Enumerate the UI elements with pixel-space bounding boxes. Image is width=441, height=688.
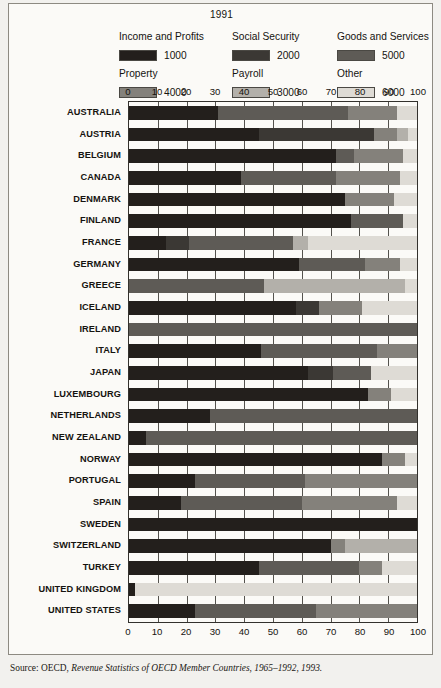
bar-segment-1000 <box>129 409 210 423</box>
x-tick-bottom-30: 30 <box>210 626 221 637</box>
bar-segment-4000 <box>377 344 417 358</box>
bar-row[interactable] <box>129 539 417 553</box>
bar-segment-1000 <box>129 106 218 120</box>
legend-swatch-icon-2000 <box>232 50 270 61</box>
bar-segment-5000 <box>333 366 370 380</box>
bar-segment-2000 <box>308 366 334 380</box>
bar-segment-1000 <box>129 301 296 315</box>
bar-segment-6000 <box>397 106 417 120</box>
bar-segment-4000 <box>331 539 345 553</box>
bar-segment-6000 <box>403 214 417 228</box>
bar-row[interactable] <box>129 474 417 488</box>
bar-segment-5000 <box>189 236 293 250</box>
bar-segment-1000 <box>129 149 336 163</box>
bar-segment-3000 <box>397 128 409 142</box>
bar-segment-5000 <box>195 474 304 488</box>
bar-row[interactable] <box>129 583 417 597</box>
x-tick-top-60: 60 <box>297 86 308 97</box>
bar-segment-6000 <box>400 258 417 272</box>
bar-row[interactable] <box>129 149 417 163</box>
bar-row[interactable] <box>129 279 417 293</box>
bar-row[interactable] <box>129 561 417 575</box>
bar-segment-4000 <box>319 301 362 315</box>
bar-segment-6000 <box>403 149 417 163</box>
bar-segment-1000 <box>129 214 351 228</box>
category-label: PORTUGAL <box>69 475 121 485</box>
bar-segment-6000 <box>308 236 417 250</box>
bar-row[interactable] <box>129 301 417 315</box>
legend-item-1000[interactable]: 1000 <box>119 45 232 65</box>
x-tick-bottom-80: 80 <box>355 626 366 637</box>
bar-row[interactable] <box>129 323 417 337</box>
bar-row[interactable] <box>129 258 417 272</box>
bar-segment-4000 <box>316 604 417 618</box>
bar-row[interactable] <box>129 431 417 445</box>
bar-row[interactable] <box>129 604 417 618</box>
x-tick-top-100: 100 <box>410 86 426 97</box>
bar-segment-6000 <box>362 301 417 315</box>
bar-segment-4000 <box>374 128 397 142</box>
x-tick-top-70: 70 <box>326 86 337 97</box>
category-label: ICELAND <box>79 302 121 312</box>
bar-segment-4000 <box>305 474 417 488</box>
bar-row[interactable] <box>129 171 417 185</box>
bar-row[interactable] <box>129 128 417 142</box>
bar-segment-3000 <box>293 236 307 250</box>
category-label: SWITZERLAND <box>53 540 121 550</box>
category-axis-labels: AUSTRALIAAUSTRIABELGIUMCANADADENMARKFINL… <box>9 101 124 623</box>
legend-item-5000[interactable]: 5000 <box>337 45 441 65</box>
bar-segment-3000 <box>264 279 405 293</box>
bar-segment-6000 <box>391 388 417 402</box>
x-tick-bottom-60: 60 <box>297 626 308 637</box>
bar-segment-1000 <box>129 453 382 467</box>
bar-row[interactable] <box>129 453 417 467</box>
bar-segment-4000 <box>365 258 400 272</box>
category-label: BELGIUM <box>78 150 121 160</box>
bar-segment-5000 <box>241 171 336 185</box>
bar-row[interactable] <box>129 106 417 120</box>
bar-segment-1000 <box>129 539 331 553</box>
x-tick-bottom-100: 100 <box>410 626 426 637</box>
bar-row[interactable] <box>129 496 417 510</box>
category-label: SWEDEN <box>80 519 121 529</box>
bar-segment-1000 <box>129 193 345 207</box>
x-tick-top-40: 40 <box>239 86 250 97</box>
bar-segment-4000 <box>354 149 403 163</box>
bar-segment-2000 <box>259 128 374 142</box>
bar-row[interactable] <box>129 344 417 358</box>
bar-segment-1000 <box>129 236 166 250</box>
x-tick-bottom-70: 70 <box>326 626 337 637</box>
bar-row[interactable] <box>129 214 417 228</box>
figure-panel: 1991 Income and ProfitsSocial SecurityGo… <box>8 3 433 655</box>
bar-segment-6000 <box>405 453 417 467</box>
bar-segment-6000 <box>400 171 417 185</box>
x-tick-top-80: 80 <box>355 86 366 97</box>
x-axis-bottom: 0102030405060708090100 <box>128 626 418 640</box>
bar-segment-1000 <box>129 431 146 445</box>
bar-row[interactable] <box>129 193 417 207</box>
bar-row[interactable] <box>129 409 417 423</box>
category-label: CANADA <box>81 172 121 182</box>
category-label: ITALY <box>95 345 121 355</box>
bar-segment-5000 <box>261 344 376 358</box>
bar-row[interactable] <box>129 518 417 532</box>
bar-segment-6000 <box>382 561 417 575</box>
bar-segment-4000 <box>336 171 399 185</box>
chart-title: 1991 <box>9 9 434 20</box>
bar-row[interactable] <box>129 388 417 402</box>
source-citation: Revenue Statistics of OECD Member Countr… <box>71 663 322 673</box>
bar-rows <box>129 102 417 622</box>
bar-segment-5000 <box>181 496 302 510</box>
bar-row[interactable] <box>129 236 417 250</box>
legend-item-2000[interactable]: 2000 <box>232 45 337 65</box>
legend-code-1000: 1000 <box>164 50 187 61</box>
legend-title-4000: Property <box>119 65 232 82</box>
category-label: TURKEY <box>83 562 121 572</box>
category-label: AUSTRIA <box>79 129 121 139</box>
legend-title-3000: Payroll <box>232 65 337 82</box>
bar-row[interactable] <box>129 366 417 380</box>
x-tick-top-0: 0 <box>125 86 130 97</box>
bar-segment-1000 <box>129 171 241 185</box>
bar-segment-5000 <box>129 279 264 293</box>
x-tick-bottom-50: 50 <box>268 626 279 637</box>
